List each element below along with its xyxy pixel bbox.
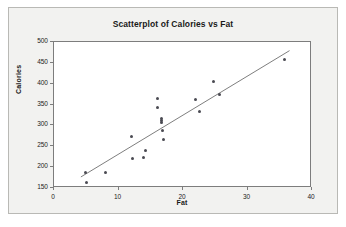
x-axis-tick-mark [182, 187, 183, 190]
plot-inner [54, 42, 310, 186]
data-point [131, 157, 134, 160]
y-axis-tick-label: 450 [37, 57, 48, 66]
figure-panel: Scatterplot of Calories vs Fat Calories … [8, 7, 338, 214]
y-axis-tick-group: 150200250300350400450500 [9, 41, 53, 187]
y-axis-tick-label: 400 [37, 78, 48, 87]
data-point [162, 138, 165, 141]
data-point [142, 156, 145, 159]
x-axis-tick-mark [247, 187, 248, 190]
y-axis-tick-label: 500 [37, 36, 48, 45]
y-axis-tick-label: 200 [37, 161, 48, 170]
data-point [218, 93, 221, 96]
y-axis-tick-label: 300 [37, 119, 48, 128]
x-axis-tick-mark [118, 187, 119, 190]
y-axis-tick-label: 150 [37, 182, 48, 191]
x-axis-tick-mark [311, 187, 312, 190]
regression-trendline [54, 42, 310, 186]
y-axis-tick-label: 350 [37, 99, 48, 108]
data-point [130, 135, 133, 138]
plot-area [53, 41, 311, 187]
chart-title: Scatterplot of Calories vs Fat [9, 19, 337, 29]
x-axis-title: Fat [53, 199, 311, 206]
y-axis-tick-label: 250 [37, 140, 48, 149]
x-axis-tick-mark [53, 187, 54, 190]
